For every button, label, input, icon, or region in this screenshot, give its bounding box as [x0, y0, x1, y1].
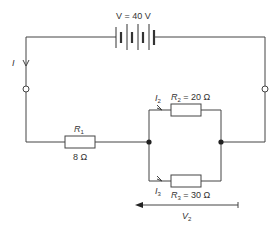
- r1-label: R1: [74, 124, 85, 135]
- terminal-left: [23, 86, 29, 92]
- resistor-r3: [171, 175, 201, 187]
- resistor-r2: [171, 104, 201, 116]
- junction-right: [218, 139, 223, 144]
- v2-label: V2: [182, 211, 192, 222]
- junction-left: [146, 139, 151, 144]
- battery-label: V = 40 V: [116, 11, 151, 21]
- r2-label: R2 = 20 Ω: [171, 92, 211, 103]
- resistor-r1: [65, 136, 95, 148]
- current-label-i: I: [12, 58, 15, 68]
- i3-label: I3: [155, 186, 162, 197]
- r1-value: 8 Ω: [73, 152, 88, 162]
- voltage-arrowhead-icon: [135, 202, 143, 208]
- i2-label: I2: [155, 93, 162, 104]
- r3-label: R3 = 30 Ω: [171, 190, 211, 201]
- circuit-diagram: V = 40 V I R1 8 Ω R2 = 20 Ω R3 = 30 Ω I2…: [0, 0, 280, 235]
- current-arrow-i3-icon: [157, 176, 162, 181]
- current-arrow-i2-icon: [157, 105, 162, 110]
- battery-icon: [116, 24, 154, 50]
- terminal-right: [262, 86, 268, 92]
